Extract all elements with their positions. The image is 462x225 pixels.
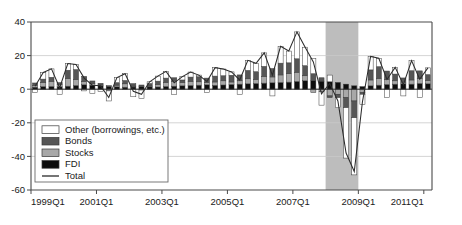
- bar-segment-bonds: [311, 74, 316, 81]
- bar-segment-bonds: [368, 70, 373, 80]
- bar-segment-fdi: [245, 84, 250, 89]
- bar-segment-stocks: [352, 89, 357, 101]
- bar-segment-bonds: [155, 81, 160, 84]
- bar-segment-bonds: [98, 83, 103, 85]
- bar-segment-bonds: [131, 84, 136, 87]
- bar-segment-bonds: [41, 79, 46, 82]
- bar-segment-bonds: [213, 76, 218, 82]
- bar-segment-fdi: [204, 85, 209, 89]
- bar-segment-fdi: [425, 84, 430, 89]
- bar-segment-stocks: [245, 79, 250, 84]
- bar-segment-stocks: [65, 79, 70, 87]
- bar-segment-bonds: [229, 75, 234, 82]
- bar-segment-stocks: [254, 79, 259, 83]
- bar-group: [33, 83, 38, 93]
- chart-legend: Other (borrowings, etc.)BondsStocksFDITo…: [35, 120, 168, 182]
- bar-segment-other: [384, 89, 389, 97]
- bar-segment-stocks: [303, 76, 308, 81]
- bar-segment-other: [270, 89, 275, 96]
- bar-segment-bonds: [376, 67, 381, 79]
- bar-segment-bonds: [344, 98, 349, 108]
- bar-group: [294, 32, 299, 89]
- bar-segment-bonds: [180, 80, 185, 83]
- bar-segment-stocks: [393, 81, 398, 84]
- bar-segment-stocks: [409, 80, 414, 84]
- bar-segment-other: [33, 89, 38, 92]
- bar-segment-fdi: [335, 82, 340, 89]
- legend-label: Stocks: [65, 147, 94, 158]
- y-tick-label: -60: [11, 184, 25, 195]
- bar-segment-stocks: [123, 84, 128, 87]
- bar-group: [344, 84, 349, 158]
- bar-segment-stocks: [286, 74, 291, 82]
- bar-segment-stocks: [262, 76, 267, 83]
- bar-segment-bonds: [327, 96, 332, 98]
- y-tick-label: -40: [11, 151, 25, 162]
- bar-segment-other: [237, 89, 242, 94]
- bar-segment-bonds: [278, 63, 283, 75]
- bar-segment-fdi: [82, 85, 87, 89]
- bar-segment-bonds: [245, 70, 250, 78]
- bar-segment-bonds: [352, 101, 357, 118]
- bar-segment-other: [327, 75, 332, 82]
- bar-segment-fdi: [221, 85, 226, 89]
- bar-group: [254, 63, 259, 89]
- bar-segment-bonds: [425, 75, 430, 81]
- bar-segment-fdi: [213, 85, 218, 89]
- x-tick-label: 2007Q1: [276, 196, 310, 207]
- bar-group: [221, 69, 226, 89]
- bar-segment-fdi: [286, 82, 291, 89]
- legend-swatch: [42, 126, 59, 134]
- bar-group: [90, 81, 95, 93]
- bar-segment-bonds: [73, 70, 78, 80]
- legend-swatch: [42, 149, 59, 157]
- chart-figure: 40200-20-40-60 1999Q12001Q12003Q12005Q12…: [0, 0, 462, 225]
- bar-segment-other: [254, 63, 259, 71]
- bar-group: [114, 78, 119, 90]
- bar-segment-stocks: [229, 82, 234, 85]
- bar-segment-bonds: [123, 80, 128, 83]
- bar-segment-bonds: [163, 78, 168, 82]
- bar-segment-other: [286, 51, 291, 63]
- bar-segment-other: [90, 89, 95, 93]
- x-tick-label: 2005Q1: [211, 196, 245, 207]
- bar-segment-fdi: [409, 84, 414, 89]
- bar-segment-fdi: [270, 83, 275, 89]
- bar-segment-stocks: [270, 77, 275, 83]
- x-tick-label: 2009Q1: [341, 196, 375, 207]
- bar-group: [303, 47, 308, 89]
- bar-segment-stocks: [155, 84, 160, 87]
- bar-segment-other: [213, 68, 218, 76]
- bar-group: [196, 75, 201, 89]
- bar-segment-other: [401, 89, 406, 96]
- bar-segment-bonds: [319, 78, 324, 81]
- bar-group: [229, 72, 234, 89]
- bar-segment-fdi: [73, 86, 78, 90]
- x-tick-label: 1999Q1: [31, 196, 65, 207]
- bar-segment-fdi: [352, 86, 357, 89]
- bar-segment-fdi: [344, 84, 349, 89]
- bar-segment-stocks: [196, 82, 201, 85]
- bar-segment-stocks: [188, 81, 193, 85]
- x-tick-label: 2011Q1: [391, 196, 424, 207]
- bar-group: [155, 76, 160, 89]
- bar-segment-fdi: [196, 85, 201, 89]
- bar-segment-fdi: [384, 84, 389, 89]
- bar-segment-stocks: [327, 89, 332, 96]
- bar-group: [147, 82, 152, 89]
- bar-segment-fdi: [262, 83, 267, 89]
- bar-segment-stocks: [204, 82, 209, 85]
- bar-segment-fdi: [303, 81, 308, 89]
- legend-swatch: [42, 137, 59, 145]
- bar-group: [123, 74, 128, 89]
- x-axis-ticks: 1999Q12001Q12003Q12005Q12007Q12009Q12011…: [31, 190, 424, 207]
- stacked-bar-chart: 40200-20-40-60 1999Q12001Q12003Q12005Q12…: [0, 0, 462, 225]
- bar-segment-stocks: [344, 89, 349, 97]
- legend-label: FDI: [65, 158, 80, 169]
- bar-segment-stocks: [376, 78, 381, 85]
- bar-segment-other: [417, 89, 422, 97]
- bar-segment-stocks: [73, 80, 78, 86]
- bar-segment-fdi: [393, 84, 398, 89]
- bar-group: [368, 56, 373, 89]
- bar-segment-fdi: [368, 86, 373, 89]
